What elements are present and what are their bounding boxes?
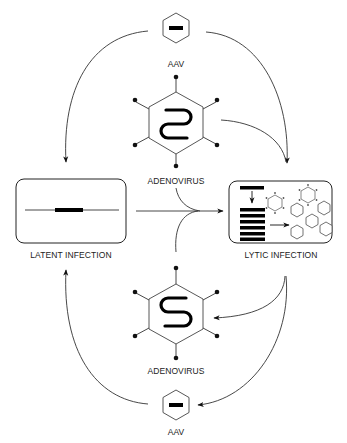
- adenovirus-bottom-label: ADENOVIRUS: [147, 366, 204, 376]
- aav-bottom-label: AAV: [168, 427, 185, 437]
- aav-genome-icon: [169, 403, 183, 407]
- arrow-lytic-to-adenovirus: [214, 276, 285, 318]
- aav-top-node: AAV: [163, 13, 189, 69]
- latent-infection-label: LATENT INFECTION: [30, 250, 112, 260]
- latent-infection-node: LATENT INFECTION: [16, 179, 126, 260]
- adenovirus-top-label: ADENOVIRUS: [147, 176, 204, 186]
- adenovirus-top-node: ADENOVIRUS: [133, 75, 220, 186]
- aav-genome-icon: [169, 26, 183, 30]
- aav-top-label: AAV: [168, 59, 185, 69]
- adenovirus-bottom-join-curve: [176, 211, 198, 252]
- aav-bottom-node: AAV: [163, 390, 189, 437]
- infection-cycle-diagram: AAV ADENOVIRUS LATENT I: [0, 0, 347, 443]
- adenovirus-bottom-node: ADENOVIRUS: [133, 266, 220, 376]
- adenovirus-top-join-curve: [176, 188, 200, 211]
- integrated-aav-genome-icon: [55, 208, 83, 212]
- adenovirus-capsid-icon: [149, 284, 203, 344]
- arrow-aav-to-latent: [66, 31, 148, 162]
- lytic-infection-node: LYTIC INFECTION: [229, 181, 332, 260]
- arrow-adenovirus-to-lytic: [221, 120, 286, 162]
- lytic-infection-label: LYTIC INFECTION: [244, 250, 317, 260]
- single-genome-icon: [240, 186, 264, 190]
